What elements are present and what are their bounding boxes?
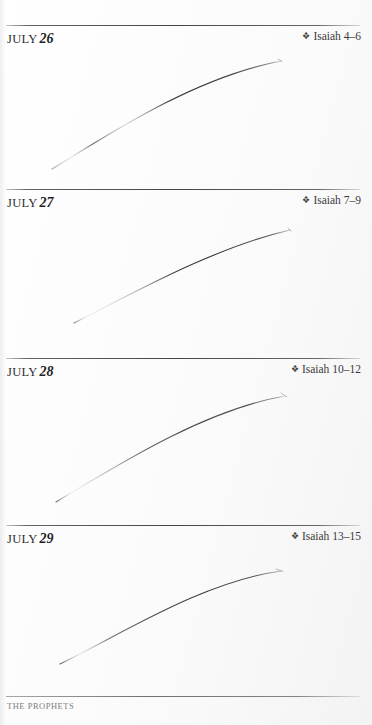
entry-header: JULY28 ❖Isaiah 10–12 (0, 362, 372, 382)
entry-divider-rule (6, 358, 360, 359)
scripture-reference: ❖Isaiah 13–15 (291, 530, 361, 542)
scripture-reference: ❖Isaiah 10–12 (291, 363, 361, 375)
date-label: JULY27 (7, 193, 54, 211)
diamond-bullet-icon: ❖ (291, 364, 299, 374)
scripture-reference-text: Isaiah 10–12 (302, 363, 361, 375)
entry-divider-rule (6, 189, 360, 190)
date-day: 26 (40, 31, 54, 46)
date-month: JULY (7, 365, 38, 379)
entry-header: JULY27 ❖Isaiah 7–9 (0, 193, 372, 213)
diamond-bullet-icon: ❖ (291, 531, 299, 541)
scripture-reference-text: Isaiah 7–9 (313, 194, 361, 206)
date-label: JULY29 (7, 529, 54, 547)
footer-section-label: THE PROPHETS (7, 701, 74, 711)
diamond-bullet-icon: ❖ (302, 31, 310, 41)
date-day: 29 (40, 531, 54, 546)
date-month: JULY (7, 32, 38, 46)
entry-divider-rule (6, 25, 360, 26)
date-day: 27 (40, 195, 54, 210)
scripture-reference-text: Isaiah 4–6 (313, 30, 361, 42)
date-label: JULY28 (7, 362, 54, 380)
entry-header: JULY29 ❖Isaiah 13–15 (0, 529, 372, 549)
scripture-reference-text: Isaiah 13–15 (302, 530, 361, 542)
scripture-reference: ❖Isaiah 4–6 (302, 30, 361, 42)
diamond-bullet-icon: ❖ (302, 195, 310, 205)
date-month: JULY (7, 532, 38, 546)
date-label: JULY26 (7, 29, 54, 47)
scanned-book-page: JULY26 ❖Isaiah 4–6 (0, 0, 372, 725)
date-month: JULY (7, 196, 38, 210)
scripture-reference: ❖Isaiah 7–9 (302, 194, 361, 206)
date-day: 28 (40, 364, 54, 379)
entry-divider-rule (6, 525, 360, 526)
binding-shadow-curve (0, 360, 372, 525)
binding-shadow-curve (0, 530, 372, 690)
entry-header: JULY26 ❖Isaiah 4–6 (0, 29, 372, 49)
binding-shadow-curve (0, 190, 372, 355)
footer-divider-rule (6, 696, 360, 697)
